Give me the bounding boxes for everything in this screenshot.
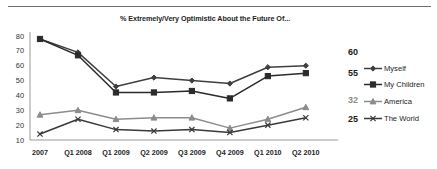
data-point-marker [303,104,309,109]
data-point-marker [227,96,232,101]
data-point-marker [227,81,232,86]
x-tick-label: 2007 [32,148,48,157]
y-tick-label: 40 [16,91,24,100]
x-tick-label: Q2 2010 [292,148,320,157]
legend-item-my-children[interactable]: My Children [364,80,425,89]
end-value-label: 25 [348,114,358,124]
legend-item-america[interactable]: America [364,97,413,106]
legend-label: The World [384,114,419,123]
y-tick-label: 60 [16,61,24,70]
end-value-label: 55 [348,68,358,78]
legend-item-the-world[interactable]: The World [364,114,419,123]
data-point-marker [37,36,42,41]
series-america [37,104,309,130]
legend-marker-icon [370,66,375,71]
line-chart-svg: 1020304050607080 2007Q1 2008Q1 2009Q2 20… [0,0,437,169]
x-tick-label: Q3 2009 [178,148,206,157]
data-point-marker [265,65,270,70]
series-myself [37,36,308,89]
chart-screenshot: % Extremely/Very Optimistic About the Fu… [0,0,437,169]
legend-label: My Children [384,80,425,89]
chart-legend: MyselfMy ChildrenAmericaThe World [364,64,425,123]
data-point-marker [189,78,194,83]
series-line [40,39,306,87]
legend-label: Myself [384,64,407,73]
x-tick-label: Q2 2009 [140,148,168,157]
x-tick-label: Q1 2009 [102,148,130,157]
x-axis: 2007Q1 2008Q1 2009Q2 2009Q3 2009Q4 2009Q… [32,148,320,157]
data-point-marker [151,90,156,95]
y-tick-label: 50 [16,76,24,85]
legend-marker-icon [370,82,375,87]
end-value-labels: 60553225 [348,47,358,124]
y-tick-label: 10 [16,136,24,145]
legend-label: America [384,97,413,106]
data-point-marker [75,53,80,58]
y-tick-label: 70 [16,46,24,55]
data-point-marker [303,71,308,76]
chart-plot-area: 1020304050607080 2007Q1 2008Q1 2009Q2 20… [0,0,437,169]
end-value-label: 60 [348,47,358,57]
x-tick-label: Q4 2009 [216,148,244,157]
y-tick-label: 30 [16,106,24,115]
y-tick-label: 20 [16,121,24,130]
data-point-marker [265,74,270,79]
data-point-marker [189,88,194,93]
end-value-label: 32 [348,95,358,105]
data-series-group [37,36,309,136]
data-point-marker [151,75,156,80]
data-point-marker [113,90,118,95]
x-tick-label: Q1 2010 [254,148,282,157]
x-tick-label: Q1 2008 [64,148,92,157]
y-tick-label: 80 [16,32,24,41]
legend-item-myself[interactable]: Myself [364,64,407,73]
data-point-marker [303,63,308,68]
